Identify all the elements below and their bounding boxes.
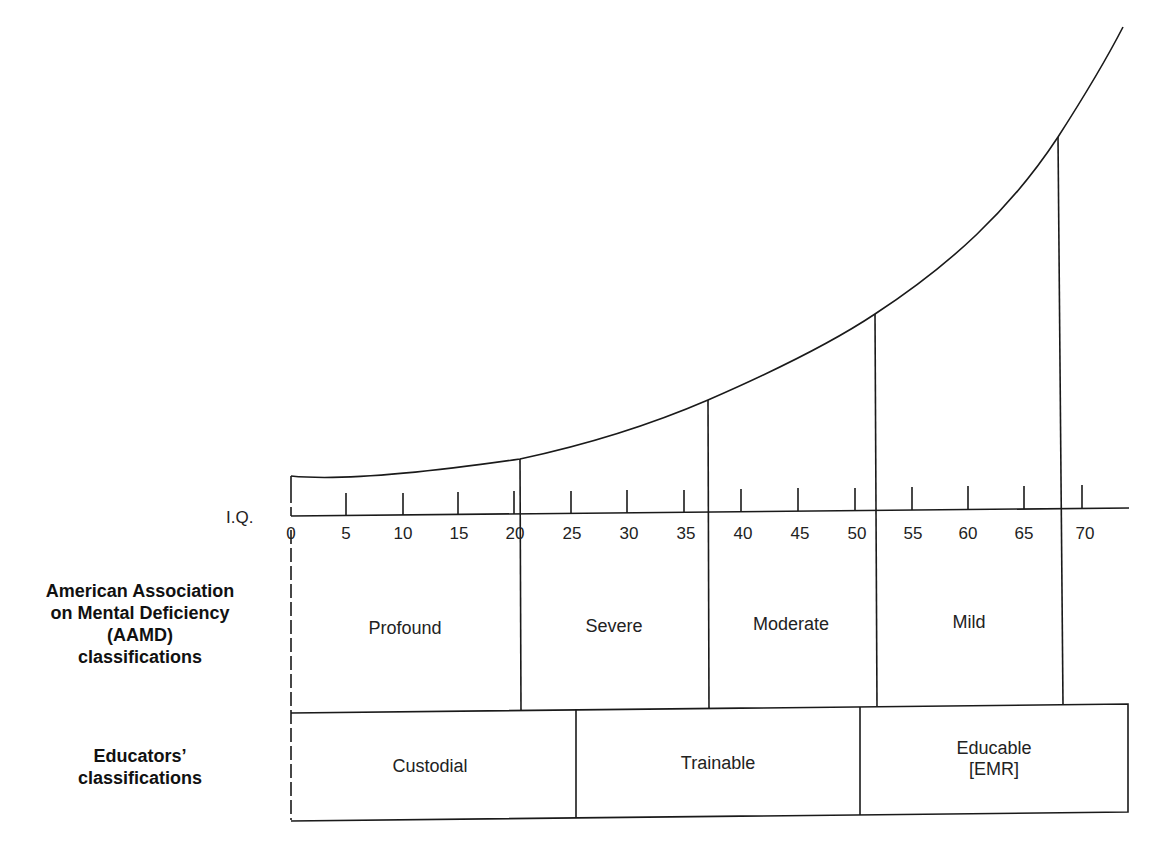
tick-label: 15 bbox=[450, 524, 469, 544]
educators-label-line: Educators’ bbox=[10, 745, 270, 767]
tick-label: 70 bbox=[1076, 524, 1095, 544]
iq-classification-diagram bbox=[0, 0, 1158, 847]
tick-label: 10 bbox=[394, 524, 413, 544]
boundary-moderate-mild bbox=[875, 314, 877, 706]
tick-label: 50 bbox=[848, 524, 867, 544]
tick-label: 30 bbox=[620, 524, 639, 544]
aamd-cell-mild: Mild bbox=[952, 612, 985, 633]
boundary-mild-end bbox=[1058, 137, 1063, 704]
tick-label: 55 bbox=[904, 524, 923, 544]
iq-curve bbox=[291, 27, 1123, 477]
tick-label: 25 bbox=[563, 524, 582, 544]
aamd-cell-moderate: Moderate bbox=[753, 614, 829, 635]
aamd-cell-profound: Profound bbox=[368, 618, 441, 639]
boundary-severe-moderate bbox=[708, 400, 709, 708]
tick-label: 60 bbox=[959, 524, 978, 544]
aamd-label-line: (AAMD) bbox=[10, 624, 270, 646]
iq-axis bbox=[291, 508, 1129, 516]
tick-label: 35 bbox=[677, 524, 696, 544]
educable-label: Educable bbox=[956, 738, 1031, 759]
aamd-label-line: American Association bbox=[10, 580, 270, 602]
tick-label: 40 bbox=[734, 524, 753, 544]
educators-cell-trainable: Trainable bbox=[681, 753, 755, 774]
iq-axis-label: I.Q. bbox=[226, 508, 253, 528]
axis-ticks bbox=[291, 485, 1082, 516]
aamd-label-line: on Mental Deficiency bbox=[10, 602, 270, 624]
boundary-profound-severe bbox=[520, 459, 521, 710]
aamd-row-label: American Association on Mental Deficienc… bbox=[10, 580, 270, 668]
tick-label: 0 bbox=[286, 524, 295, 544]
aamd-cell-severe: Severe bbox=[585, 616, 642, 637]
aamd-label-line: classifications bbox=[10, 646, 270, 668]
tick-label: 5 bbox=[341, 524, 350, 544]
educators-cell-educable: Educable [EMR] bbox=[956, 738, 1031, 780]
tick-label: 65 bbox=[1015, 524, 1034, 544]
tick-label: 20 bbox=[506, 524, 525, 544]
educators-row-label: Educators’ classifications bbox=[10, 745, 270, 789]
tick-label: 45 bbox=[791, 524, 810, 544]
educators-cell-custodial: Custodial bbox=[392, 756, 467, 777]
educators-label-line: classifications bbox=[10, 767, 270, 789]
emr-label: [EMR] bbox=[956, 759, 1031, 780]
